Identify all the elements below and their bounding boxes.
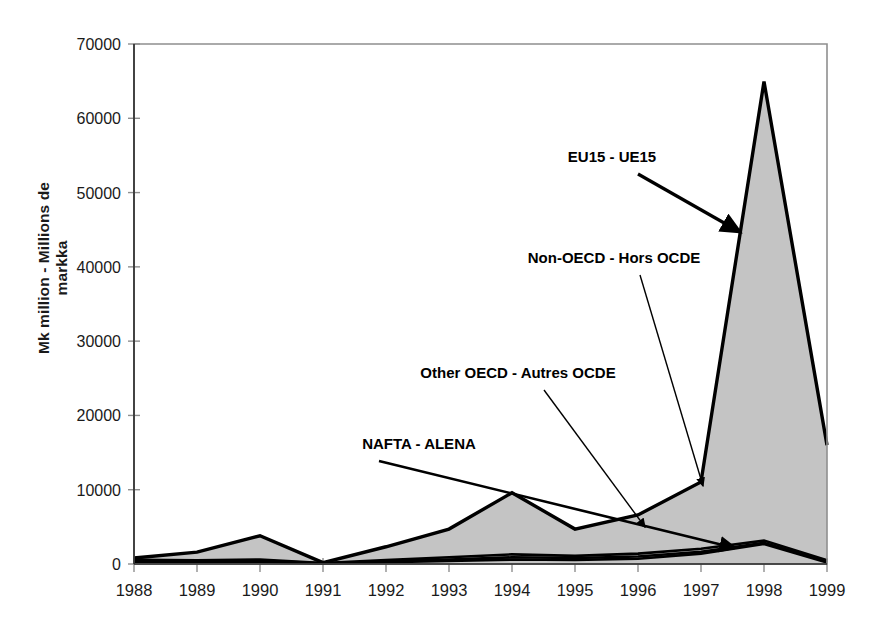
x-tick-label: 1988 [116,581,153,599]
y-tick-label: 60000 [77,110,122,127]
x-tick-label: 1991 [305,581,342,599]
annotation-label-1: Non-OECD - Hors OCDE [528,249,701,266]
annotation-arrow-0 [638,174,740,232]
x-tick-label: 1996 [620,581,657,599]
y-tick-label: 70000 [77,36,122,53]
annotation-label-2: Other OECD - Autres OCDE [420,364,615,381]
x-tick-label: 1999 [809,581,846,599]
y-tick-label: 10000 [77,482,122,499]
x-tick-label: 1992 [368,581,405,599]
area-chart: 0100002000030000400005000060000700001988… [0,0,883,634]
y-tick-label: 20000 [77,407,122,424]
annotation-arrow-1 [640,275,703,486]
annotation-label-3: NAFTA - ALENA [362,435,476,452]
area-band-3 [134,82,827,564]
x-tick-label: 1990 [242,581,279,599]
y-tick-label: 30000 [77,333,122,350]
y-axis-title: Mk million - Millions de markka [35,153,71,383]
x-tick-label: 1995 [557,581,594,599]
annotation-label-0: EU15 - UE15 [568,148,656,165]
y-tick-label: 40000 [77,259,122,276]
x-tick-label: 1997 [683,581,720,599]
x-tick-label: 1989 [179,581,216,599]
chart-page: Mk million - Millions de markka 01000020… [0,0,883,634]
y-tick-label: 50000 [77,185,122,202]
y-tick-label: 0 [112,556,121,573]
x-tick-label: 1993 [431,581,468,599]
x-tick-label: 1994 [494,581,531,599]
cropped-header-text [110,0,670,7]
annotation-arrow-2 [544,390,645,527]
x-tick-label: 1998 [746,581,783,599]
